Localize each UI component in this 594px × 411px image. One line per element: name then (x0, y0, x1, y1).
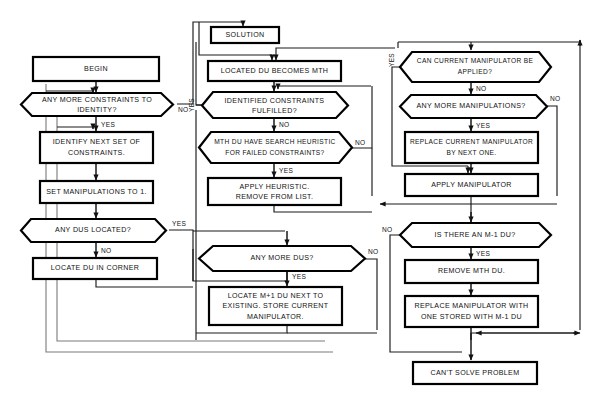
node-apply-heuristic-line2: REMOVE FROM LIST. (236, 193, 314, 201)
node-apply-heuristic-line1: APPLY HEURISTIC. (240, 183, 310, 191)
edge-label-constraints-yes: YES (101, 121, 115, 128)
edge-label-more-dus-yes: YES (292, 273, 306, 280)
node-replace-manipulator-with-line1: REPLACE MANIPULATOR WITH (414, 302, 528, 310)
edge-label-dus-located-no: NO (101, 247, 112, 254)
node-replace-manipulator-with-line2: ONE STORED WITH M-1 DU (421, 313, 522, 321)
conn-locatem1-out (196, 325, 287, 333)
node-mth-du-search-line2: FOR FAILED CONSTRAINTS? (225, 149, 324, 156)
node-identify-next-set-line1: IDENTIFY NEXT SET OF (53, 138, 141, 146)
node-begin-label: BEGIN (84, 65, 108, 73)
flowchart-svg: SOLUTION BEGIN ANY MORE CONSTRAINTS TO I… (0, 0, 594, 411)
flowchart-canvas: SOLUTION BEGIN ANY MORE CONSTRAINTS TO I… (0, 0, 594, 411)
node-solution-label: SOLUTION (225, 31, 264, 39)
edge-label-m1du-yes: YES (476, 250, 490, 257)
node-mth-du-search-line1: MTH DU HAVE SEARCH HEURISTIC (214, 138, 335, 145)
node-identified-constraints-fulfilled[interactable]: IDENTIFIED CONSTRAINTS FULFILLED? (202, 92, 348, 118)
node-replace-manipulator-with[interactable]: REPLACE MANIPULATOR WITH ONE STORED WITH… (405, 296, 538, 327)
node-locate-m-plus-1-line2: EXISTING. STORE CURRENT (222, 302, 328, 310)
edge-label-more-dus-no: NO (368, 248, 379, 255)
conn-heuristicloop-return (278, 86, 371, 89)
node-begin[interactable]: BEGIN (33, 57, 159, 81)
edge-label-heuristic-yes: YES (279, 167, 293, 174)
node-cant-solve-label: CAN'T SOLVE PROBLEM (431, 369, 520, 377)
node-replace-current-manipulator-line1: REPLACE CURRENT MANIPULATOR (410, 138, 533, 145)
node-apply-heuristic[interactable]: APPLY HEURISTIC. REMOVE FROM LIST. (208, 178, 341, 205)
conn-locatecorner-out (96, 279, 193, 287)
node-solution[interactable]: SOLUTION (211, 27, 279, 43)
edge-label-fulfilled-yes: YES (188, 98, 195, 112)
node-locate-m-plus-1-line1: LOCATE M+1 DU NEXT TO (228, 292, 324, 300)
node-is-there-m-minus-1-label: IS THERE AN M-1 DU? (434, 231, 515, 239)
node-located-du-becomes-mth[interactable]: LOCATED DU BECOMES MTH (208, 61, 341, 81)
node-any-more-manipulations[interactable]: ANY MORE MANIPULATIONS? (400, 95, 547, 118)
conn-m1du-no (390, 235, 462, 352)
node-locate-m-plus-1-line3: MANIPULATOR. (247, 313, 304, 321)
node-located-du-becomes-mth-label: LOCATED DU BECOMES MTH (221, 67, 329, 75)
edge-label-can-manip-yes: YES (388, 53, 395, 67)
edge-label-can-manip-no: NO (476, 85, 487, 92)
node-any-more-dus-label: ANY MORE DUS? (250, 254, 313, 262)
node-any-more-constraints[interactable]: ANY MORE CONSTRAINTS TO IDENTITY? (21, 93, 173, 116)
node-any-more-dus[interactable]: ANY MORE DUS? (199, 246, 365, 271)
node-locate-du-corner-label: LOCATE DU IN CORNER (51, 264, 140, 272)
edge-label-m1du-no: NO (382, 226, 393, 233)
edge-label-fulfilled-no: NO (279, 121, 290, 128)
node-can-current-manipulator-line2: APPLIED? (458, 68, 492, 75)
conn-moredus-no (365, 259, 377, 330)
node-identify-next-set[interactable]: IDENTIFY NEXT SET OF CONSTRAINTS. (40, 132, 153, 163)
node-remove-mth-du[interactable]: REMOVE MTH DU. (405, 260, 538, 283)
node-identified-constraints-line2: FULFILLED? (252, 107, 297, 115)
node-remove-mth-du-label: REMOVE MTH DU. (438, 267, 505, 275)
node-replace-current-manipulator-line2: BY NEXT ONE. (446, 149, 496, 156)
conn-moremanip-no (547, 106, 557, 196)
node-is-there-m-minus-1[interactable]: IS THERE AN M-1 DU? (400, 223, 551, 247)
node-set-manipulations[interactable]: SET MANIPULATIONS TO 1. (40, 181, 153, 203)
conn-applymanip-right (471, 196, 557, 204)
node-mth-du-search-heuristic[interactable]: MTH DU HAVE SEARCH HEURISTIC FOR FAILED … (199, 132, 352, 163)
node-any-more-constraints-line2: IDENTITY? (77, 106, 116, 114)
node-replace-current-manipulator[interactable]: REPLACE CURRENT MANIPULATOR BY NEXT ONE. (405, 132, 538, 163)
node-identify-next-set-line2: CONSTRAINTS. (68, 149, 125, 157)
node-can-current-manipulator[interactable]: CAN CURRENT MANIPULATOR BE APPLIED? (400, 52, 551, 82)
edge-label-dus-located-yes: YES (172, 220, 186, 227)
edge-label-heuristic-no: NO (355, 139, 366, 146)
node-locate-m-plus-1[interactable]: LOCATE M+1 DU NEXT TO EXISTING. STORE CU… (209, 287, 342, 325)
node-any-more-manipulations-label: ANY MORE MANIPULATIONS? (416, 102, 525, 110)
node-set-manipulations-label: SET MANIPULATIONS TO 1. (46, 188, 147, 196)
node-locate-du-corner[interactable]: LOCATE DU IN CORNER (33, 258, 157, 279)
node-cant-solve[interactable]: CAN'T SOLVE PROBLEM (413, 362, 537, 384)
node-any-dus-located-label: ANY DUS LOCATED? (55, 226, 131, 234)
node-can-current-manipulator-line1: CAN CURRENT MANIPULATOR BE (417, 57, 534, 64)
node-apply-manipulator-label: APPLY MANIPULATOR (431, 181, 512, 189)
node-apply-manipulator[interactable]: APPLY MANIPULATOR (405, 174, 538, 196)
edge-label-more-manip-yes: YES (476, 122, 490, 129)
node-identified-constraints-line1: IDENTIFIED CONSTRAINTS (225, 97, 325, 105)
node-any-more-constraints-line1: ANY MORE CONSTRAINTS TO (42, 96, 152, 104)
edge-label-more-manip-no: NO (550, 95, 561, 102)
node-any-dus-located[interactable]: ANY DUS LOCATED? (21, 219, 166, 242)
conn-right-into-locatedmth (276, 48, 395, 56)
